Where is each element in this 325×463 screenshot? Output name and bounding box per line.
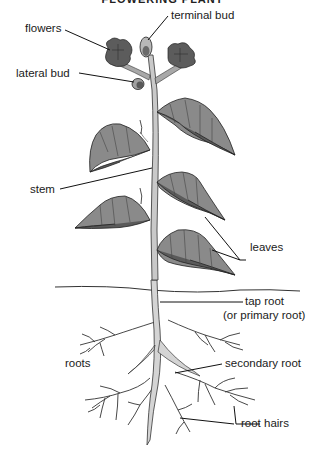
label-roots: roots [65, 357, 91, 370]
label-tap-root-alt: (or primary root) [223, 309, 305, 322]
label-secondary-root: secondary root [225, 357, 301, 370]
ground-line [55, 286, 300, 292]
roots-icon [80, 320, 255, 434]
flower-left [106, 38, 133, 67]
stem-shape [148, 55, 158, 280]
flower-right [168, 43, 195, 68]
tap-root-shape [147, 280, 161, 445]
label-terminal-bud: terminal bud [171, 9, 234, 22]
label-flowers: flowers [25, 22, 61, 35]
label-lateral-bud: lateral bud [16, 67, 70, 80]
label-stem: stem [30, 183, 55, 196]
label-root-hairs: root hairs [241, 417, 289, 430]
label-leaves: leaves [250, 241, 283, 254]
label-tap-root: tap root [245, 295, 284, 308]
